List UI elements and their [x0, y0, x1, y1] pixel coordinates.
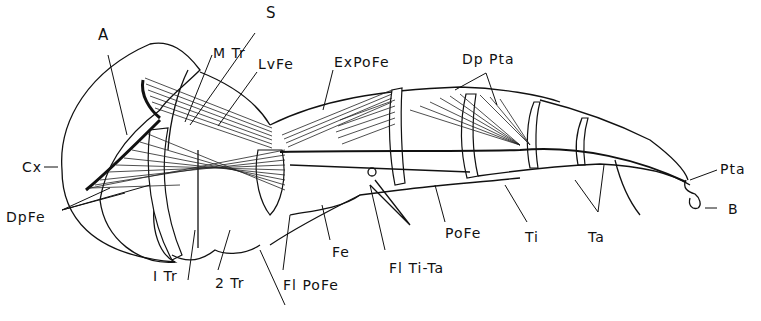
coxa-outline — [62, 43, 200, 262]
label-lvfe: LvFe — [258, 57, 294, 71]
tendon-pulley — [368, 168, 376, 176]
tarsus-outline — [540, 100, 688, 180]
tarsal-spine — [615, 160, 640, 215]
label-fl-ti-ta: Fl Ti-Ta — [389, 261, 444, 275]
tibia-joint-ring-1 — [389, 88, 405, 185]
label-pta: Pta — [720, 162, 746, 176]
femur-outline — [270, 87, 560, 125]
tibia-spine — [370, 180, 410, 225]
trochanter-ring-1 — [148, 128, 182, 260]
tibia-joint-ring-2 — [462, 94, 478, 178]
label-a: A — [98, 28, 109, 43]
pretarsus — [685, 180, 700, 208]
tarsal-joint-ring-2 — [576, 118, 588, 165]
label-ta: Ta — [588, 230, 605, 244]
leg-drawing — [0, 0, 761, 321]
leg-anatomy-diagram: A S M Tr LvFe ExPoFe Dp Pta Pta B Cx DpF… — [0, 0, 761, 321]
label-pofe: PoFe — [445, 226, 481, 240]
label-m-tr: M Tr — [213, 46, 246, 60]
label-fl-pofe: Fl PoFe — [283, 278, 339, 292]
label-s: S — [266, 6, 277, 21]
femur-joint-ring — [256, 150, 284, 215]
label-cx: Cx — [22, 160, 42, 174]
label-ti: Ti — [525, 230, 539, 244]
label-2-tr: 2 Tr — [215, 276, 245, 290]
tarsal-joint-ring-1 — [527, 102, 540, 168]
label-1-tr: I Tr — [153, 269, 178, 283]
label-b: B — [728, 202, 739, 216]
label-dppta: Dp Pta — [462, 52, 515, 66]
label-fe: Fe — [332, 245, 350, 259]
label-dpfe: DpFe — [6, 210, 46, 224]
label-expofe: ExPoFe — [334, 55, 390, 69]
